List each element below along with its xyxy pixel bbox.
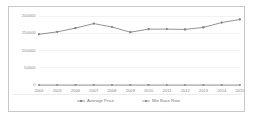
y-axis-tick-label: 50000 xyxy=(24,65,36,70)
data-point-marker xyxy=(221,84,223,86)
legend-marker xyxy=(145,100,147,102)
x-axis-tick-label: 2006 xyxy=(71,88,81,93)
data-point-marker xyxy=(111,26,113,28)
data-point-marker xyxy=(111,84,113,86)
legend-item[interactable]: Average Price xyxy=(77,98,115,103)
data-series xyxy=(38,19,241,35)
x-axis-tick-label: 2014 xyxy=(217,88,227,93)
legend-item[interactable]: Min Base Rate xyxy=(142,98,181,103)
data-point-marker xyxy=(57,31,59,33)
x-axis-tick-label: 2012 xyxy=(181,88,191,93)
x-axis-tick-label: 2010 xyxy=(144,88,154,93)
y-axis-tick-label: 200000 xyxy=(22,13,36,18)
chart-container: 050000100000150000200000 200420052006200… xyxy=(8,6,245,112)
data-point-marker xyxy=(75,27,77,29)
series-line xyxy=(39,19,240,34)
line-chart: 050000100000150000200000 200420052006200… xyxy=(9,7,246,113)
data-point-marker xyxy=(93,84,95,86)
x-axis-tick-label: 2013 xyxy=(199,88,209,93)
y-axis-tick-labels: 050000100000150000200000 xyxy=(22,13,36,87)
legend-marker xyxy=(80,100,82,102)
data-point-marker xyxy=(166,28,168,30)
y-axis-tick-label: 0 xyxy=(33,82,36,87)
y-axis-tick-label: 100000 xyxy=(22,48,36,53)
x-axis-tick-label: 2008 xyxy=(108,88,118,93)
data-point-marker xyxy=(57,84,59,86)
x-axis-tick-label: 2011 xyxy=(163,88,173,93)
x-axis-tick-label: 2007 xyxy=(89,88,99,93)
data-point-marker xyxy=(93,23,95,25)
y-axis-tick-label: 150000 xyxy=(22,30,36,35)
data-series xyxy=(38,84,241,86)
data-point-marker xyxy=(130,84,132,86)
data-point-marker xyxy=(239,19,241,21)
data-point-marker xyxy=(148,84,150,86)
data-point-marker xyxy=(203,84,205,86)
data-point-marker xyxy=(239,84,241,86)
data-point-marker xyxy=(184,84,186,86)
data-point-marker xyxy=(38,34,40,36)
data-point-marker xyxy=(38,84,40,86)
legend-label: Average Price xyxy=(87,98,115,103)
chart-legend: Average PriceMin Base Rate xyxy=(13,95,242,104)
data-point-marker xyxy=(203,27,205,29)
data-point-marker xyxy=(221,22,223,24)
x-axis-tick-label: 2004 xyxy=(34,88,44,93)
legend-label: Min Base Rate xyxy=(152,98,181,103)
x-axis-tick-label: 2015 xyxy=(235,88,245,93)
x-axis-tick-label: 2005 xyxy=(53,88,63,93)
x-axis-tick-label: 2009 xyxy=(126,88,136,93)
data-point-marker xyxy=(130,31,132,33)
data-point-marker xyxy=(166,84,168,86)
data-series-group xyxy=(38,19,241,86)
data-point-marker xyxy=(184,29,186,31)
data-point-marker xyxy=(148,28,150,30)
gridlines-group xyxy=(39,16,240,85)
x-axis-tick-labels: 2004200520062007200820092010201120122013… xyxy=(34,88,245,93)
data-point-marker xyxy=(75,84,77,86)
